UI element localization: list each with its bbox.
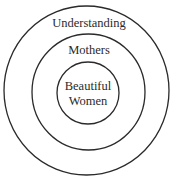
inner-label-line1: Beautiful xyxy=(65,79,112,93)
concentric-diagram: Understanding Mothers Beautiful Women xyxy=(0,0,175,183)
middle-label: Mothers xyxy=(68,43,110,57)
outer-label: Understanding xyxy=(52,16,126,30)
inner-label-line2: Women xyxy=(69,94,108,108)
inner-circle xyxy=(57,62,119,124)
